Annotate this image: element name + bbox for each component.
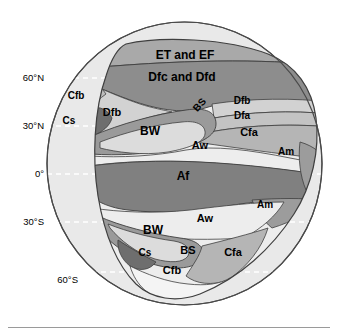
zone-label-cfb-south: Cfb xyxy=(163,264,182,276)
climate-map-figure: ET and EF Dfc and Dfd Cfb Dfb Cs BS Dfb … xyxy=(0,0,338,335)
zone-label-cs-north: Cs xyxy=(63,115,76,126)
zone-label-aw-south: Aw xyxy=(197,212,214,224)
zone-label-bs-south: BS xyxy=(180,244,195,256)
zone-label-cfb-north: Cfb xyxy=(68,90,85,101)
zone-label-et-ef: ET and EF xyxy=(156,48,215,62)
zone-label-dfa: Dfa xyxy=(234,110,251,121)
zone-label-aw-north: Aw xyxy=(192,139,209,151)
zone-label-bw-south: BW xyxy=(143,223,164,237)
lat-label-30n: 30°N xyxy=(23,120,44,131)
zone-label-bw-north: BW xyxy=(140,124,161,138)
lat-label-30s: 30°S xyxy=(23,216,44,227)
zone-label-cs-south: Cs xyxy=(139,247,152,258)
zone-label-am-north: Am xyxy=(278,146,294,157)
zone-label-af: Af xyxy=(177,169,191,183)
zone-label-cfa-south: Cfa xyxy=(224,246,243,258)
hypothetical-continent-map: ET and EF Dfc and Dfd Cfb Dfb Cs BS Dfb … xyxy=(0,0,338,335)
zone-label-am-south: Am xyxy=(257,199,273,210)
footer-divider xyxy=(8,327,330,328)
zone-label-dfb-west: Dfb xyxy=(103,106,122,118)
lat-label-60n: 60°N xyxy=(23,72,44,83)
lat-label-60s: 60°S xyxy=(57,274,78,285)
zone-label-dfc-dfd: Dfc and Dfd xyxy=(148,70,215,84)
zone-label-dfb-east: Dfb xyxy=(234,95,251,106)
zone-label-cfa-north: Cfa xyxy=(240,126,259,138)
lat-label-equator: 0° xyxy=(35,168,44,179)
